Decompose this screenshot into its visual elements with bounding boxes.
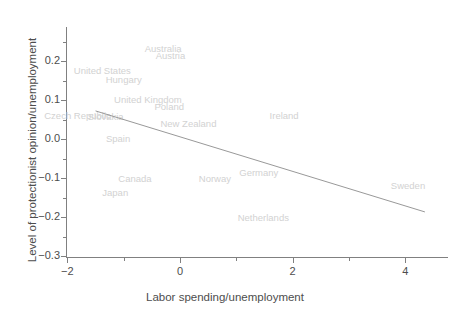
x-tick-minor (236, 258, 237, 261)
data-point-label: Spain (106, 132, 130, 143)
y-tick-label: −0.1 (20, 171, 60, 183)
y-tick-label: −0.3 (20, 249, 60, 261)
y-tick (61, 61, 66, 62)
x-tick-label: −2 (47, 265, 87, 277)
y-tick (61, 256, 66, 257)
data-point-label: Austria (156, 50, 186, 61)
data-point-label: Slovakia (88, 110, 124, 121)
x-tick-minor (349, 258, 350, 261)
y-tick-label: 0.1 (20, 93, 60, 105)
x-tick (293, 258, 294, 263)
data-point-label: Japan (102, 187, 128, 198)
data-point-label: Norway (199, 173, 231, 184)
data-point-label: Poland (155, 100, 185, 111)
y-axis-line (66, 27, 67, 257)
scatter-plot-figure: Level of protectionist opinion/unemploym… (0, 0, 450, 317)
x-tick (180, 258, 181, 263)
x-tick-label: 4 (385, 265, 425, 277)
y-tick-label: 0.0 (20, 132, 60, 144)
data-point-label: Netherlands (238, 212, 289, 223)
data-point-label: Ireland (270, 109, 299, 120)
y-tick (61, 139, 66, 140)
data-point-label: Sweden (391, 180, 425, 191)
y-tick-minor (63, 81, 66, 82)
x-tick (67, 258, 68, 263)
data-point-label: Canada (118, 173, 151, 184)
y-tick (61, 217, 66, 218)
y-tick-label: −0.2 (20, 210, 60, 222)
y-tick (61, 100, 66, 101)
data-point-label: New Zealand (160, 118, 216, 129)
x-tick-label: 0 (160, 265, 200, 277)
data-point-label: Germany (239, 167, 278, 178)
y-tick-label: 0.2 (20, 54, 60, 66)
y-tick (61, 178, 66, 179)
x-axis-label: Labor spending/unemployment (0, 291, 450, 303)
y-tick-minor (63, 237, 66, 238)
y-tick-minor (63, 198, 66, 199)
x-tick-minor (124, 258, 125, 261)
y-tick-minor (63, 159, 66, 160)
y-tick-minor (63, 42, 66, 43)
x-tick-label: 2 (273, 265, 313, 277)
x-tick (405, 258, 406, 263)
data-point-label: Hungary (106, 73, 142, 84)
